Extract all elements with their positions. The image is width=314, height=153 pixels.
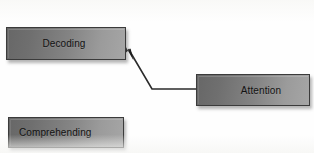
diagram-canvas: Decoding Attention Comprehending <box>0 0 314 153</box>
connector-attention-to-decoding[interactable] <box>122 45 196 90</box>
node-comprehending[interactable]: Comprehending <box>8 117 124 148</box>
connector-line <box>129 49 197 89</box>
node-attention[interactable]: Attention <box>196 74 310 106</box>
node-comprehending-label: Comprehending <box>9 127 123 138</box>
node-attention-label: Attention <box>197 85 309 96</box>
node-decoding-label: Decoding <box>7 38 125 49</box>
node-decoding[interactable]: Decoding <box>6 27 126 60</box>
